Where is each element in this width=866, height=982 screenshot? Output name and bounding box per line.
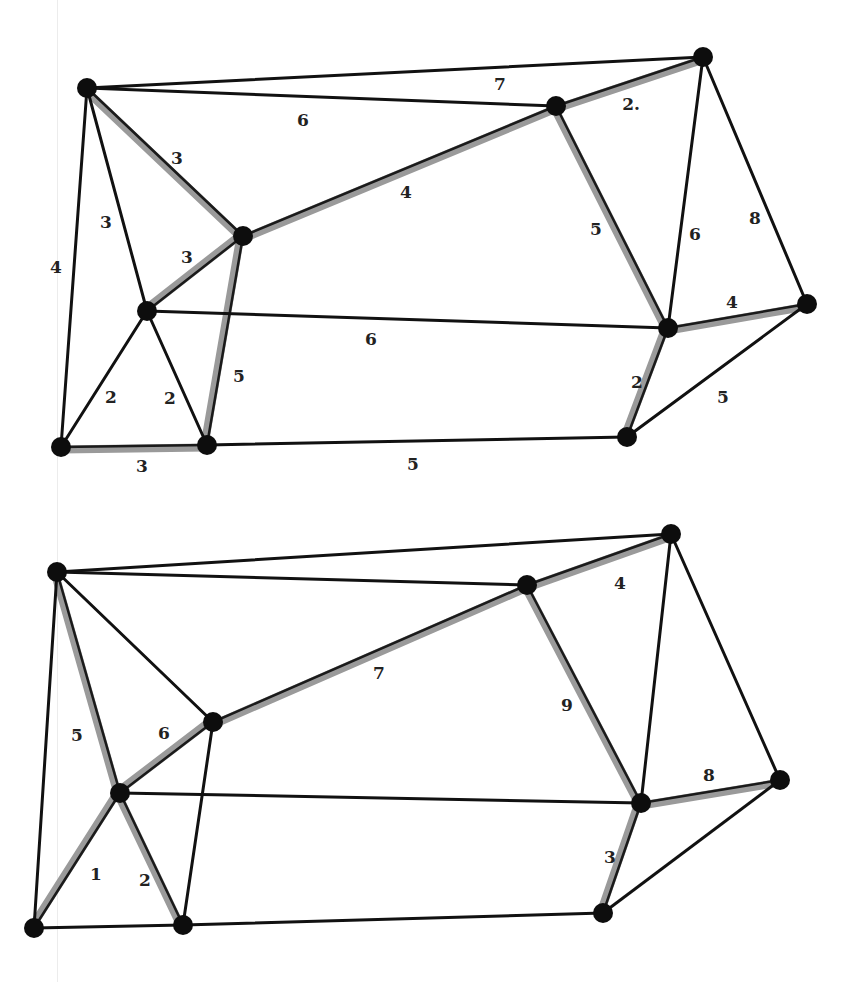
top-graph-edge-weight-AG: 7 [494, 74, 506, 94]
bottom-graph-edge-FH [527, 585, 641, 803]
top-graph-edge-weight-BE: 5 [233, 366, 245, 386]
graph-diagram-canvas: 76334435226352.568425576124983 [0, 0, 866, 982]
top-graph-node-H [658, 318, 678, 338]
top-graph-edge-weight-IJ: 5 [717, 387, 729, 407]
top-graph-edge-weight-CD: 2 [105, 387, 117, 407]
top-graph-edge-weight-BF: 4 [400, 182, 412, 202]
bottom-graph-edge-AC-shading [55, 573, 118, 794]
bottom-graph-edge-AD [34, 572, 57, 928]
top-graph-edge-BF [243, 106, 556, 236]
bottom-graph-edge-FG-shading [528, 536, 672, 587]
bottom-graph-edge-CD-shading [32, 792, 118, 927]
top-graph-edge-weight-AF: 6 [297, 110, 309, 130]
top-graph-edge-AG [87, 57, 703, 88]
top-graph-edge-AD [61, 88, 87, 447]
top-graph-edge-weight-GI: 8 [749, 208, 761, 228]
bottom-graph-node-D [24, 918, 44, 938]
bottom-graph-edge-weight-HJ: 3 [604, 847, 616, 867]
bottom-graph-edge-BF-shading [214, 587, 528, 724]
bottom-graph-node-E [173, 915, 193, 935]
bottom-graph-node-I [770, 770, 790, 790]
top-graph-node-C [137, 301, 157, 321]
bottom-graph-edge-weight-FG: 4 [614, 573, 626, 593]
top-graph-edge-CE [147, 311, 207, 445]
bottom-graph-edge-CE-shading [118, 794, 181, 926]
bottom-graph-edge-weight-CE: 2 [139, 870, 151, 890]
bottom-graph-edge-BF [213, 585, 527, 722]
top-graph-node-J [617, 427, 637, 447]
top-graph-edge-BE-shading [205, 236, 241, 445]
top-graph-edge-FH [556, 106, 668, 328]
bottom-graph-edge-GI [671, 534, 780, 780]
top-graph-edge-AF [87, 88, 556, 106]
bottom-graph-edge-DE [34, 925, 183, 928]
top-graph-edge-BE [207, 236, 243, 445]
top-graph-edge-weight-CH: 6 [365, 329, 377, 349]
top-graph-node-D [51, 437, 71, 457]
bottom-graph-node-G [661, 524, 681, 544]
node-layer [24, 47, 817, 938]
top-graph-node-A [77, 78, 97, 98]
bottom-graph-edge-weight-CD: 1 [90, 864, 102, 884]
top-graph-node-F [546, 96, 566, 116]
bottom-graph-edge-BE [183, 722, 213, 925]
top-graph-edge-weight-AD: 4 [50, 257, 62, 277]
top-graph-node-I [797, 294, 817, 314]
bottom-graph-edge-AF [57, 572, 527, 585]
top-graph-edge-weight-FH: 5 [590, 219, 602, 239]
bottom-graph-edge-AB [57, 572, 213, 722]
bottom-graph-edge-CH [120, 793, 641, 803]
top-graph-edge-GH [668, 57, 703, 328]
bottom-graph-node-A [47, 562, 67, 582]
bottom-graph-edge-GH [641, 534, 671, 803]
top-graph-node-E [197, 435, 217, 455]
bottom-graph-edge-CE [120, 793, 183, 925]
top-graph-edge-GI [703, 57, 807, 304]
bottom-graph-edge-CD [34, 793, 120, 928]
top-graph-edge-EJ [207, 437, 627, 445]
top-graph-edge-weight-BC: 3 [181, 247, 193, 267]
highlighted-edge-shading-layer [32, 59, 808, 926]
bottom-graph-edge-AC [57, 572, 120, 793]
top-graph-edge-CD [61, 311, 147, 447]
top-graph-edge-weight-DE: 3 [136, 456, 148, 476]
top-graph-node-B [233, 226, 253, 246]
bottom-graph-node-J [593, 903, 613, 923]
top-graph-edge-weight-CE: 2 [164, 388, 176, 408]
top-graph-edge-weight-AB: 3 [171, 148, 183, 168]
bottom-graph-node-F [517, 575, 537, 595]
top-graph-edge-weight-GH: 6 [689, 224, 701, 244]
top-graph-edge-weight-HJ: 2 [631, 372, 643, 392]
top-graph-edge-FH-shading [554, 107, 666, 329]
top-graph-edge-weight-EJ: 5 [407, 454, 419, 474]
bottom-graph-edge-weight-BC: 6 [158, 723, 170, 743]
top-graph-edge-weight-HI: 4 [726, 292, 738, 312]
bottom-graph-edge-weight-AC: 5 [71, 725, 83, 745]
bottom-graph-edge-weight-FH: 9 [561, 695, 573, 715]
bottom-graph-edge-weight-BF: 7 [373, 663, 385, 683]
weight-label-layer: 76334435226352.568425576124983 [50, 74, 761, 890]
bottom-graph-node-B [203, 712, 223, 732]
top-graph-edge-BF-shading [244, 108, 557, 238]
bottom-graph-edge-FH-shading [525, 586, 639, 804]
top-graph-edge-weight-AC: 3 [100, 212, 112, 232]
bottom-graph-node-H [631, 793, 651, 813]
top-graph-edge-weight-FG: 2. [622, 94, 640, 114]
bottom-graph-node-C [110, 783, 130, 803]
bottom-graph-edge-weight-HI: 8 [703, 765, 715, 785]
bottom-graph-edge-EJ [183, 913, 603, 925]
top-graph-node-G [693, 47, 713, 67]
